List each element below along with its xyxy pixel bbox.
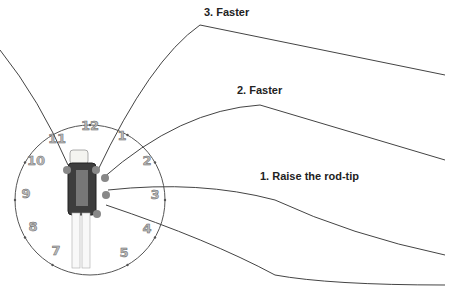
label-step2: 2. Faster <box>237 84 282 96</box>
diagram-svg: 12 1 2 3 4 5 7 8 9 10 11 <box>0 0 450 297</box>
backcast-line <box>0 50 68 165</box>
rod-lines <box>0 25 445 285</box>
hand <box>92 166 100 174</box>
hand <box>63 166 71 174</box>
line-step3 <box>97 25 445 172</box>
svg-text:3: 3 <box>150 187 159 202</box>
hat <box>70 150 88 164</box>
hand <box>102 191 110 199</box>
hand <box>101 174 109 182</box>
svg-text:10: 10 <box>27 153 45 168</box>
svg-text:11: 11 <box>48 131 66 146</box>
casting-diagram: 12 1 2 3 4 5 7 8 9 10 11 <box>0 0 450 297</box>
label-step1: 1. Raise the rod-tip <box>260 170 359 182</box>
hand <box>93 210 101 218</box>
leg-left <box>72 213 80 268</box>
svg-text:12: 12 <box>81 118 99 133</box>
label-step3: 3. Faster <box>204 6 249 18</box>
svg-text:9: 9 <box>21 186 30 201</box>
svg-text:4: 4 <box>142 221 151 236</box>
line-forward <box>106 205 445 285</box>
svg-text:7: 7 <box>51 243 60 258</box>
svg-text:8: 8 <box>28 219 37 234</box>
vest-detail <box>76 170 88 206</box>
leg-right <box>82 213 90 268</box>
line-step2 <box>103 105 445 178</box>
angler-figure <box>63 150 110 268</box>
svg-text:2: 2 <box>142 153 151 168</box>
svg-text:5: 5 <box>119 245 128 260</box>
